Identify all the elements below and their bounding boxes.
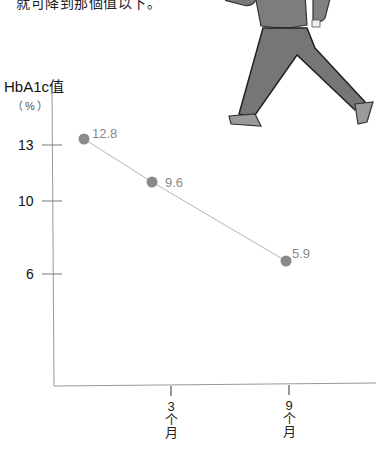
data-point [281, 256, 292, 267]
y-tick-label: 10 [18, 193, 34, 209]
data-line [84, 139, 286, 261]
y-tick-label: 13 [18, 137, 34, 153]
x-tick-label-9-months: 9 个 月 [279, 399, 299, 438]
x-tick-label-3-months: 3 个 月 [161, 400, 181, 439]
data-point [79, 134, 90, 145]
data-label: 5.9 [292, 246, 310, 261]
x-axis [54, 383, 376, 386]
y-axis [52, 90, 54, 386]
data-label: 9.6 [165, 175, 183, 190]
hba1c-line-chart: 13 10 6 12.8 9.6 5.9 [0, 0, 390, 450]
x-tick-label-char: 月 [279, 425, 299, 438]
x-tick-label-char: 月 [161, 426, 181, 439]
data-label: 12.8 [92, 126, 117, 141]
data-point [147, 177, 158, 188]
y-tick-label: 6 [26, 266, 34, 282]
